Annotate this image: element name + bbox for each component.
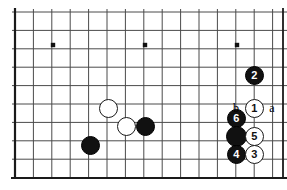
go-board-diagram: 216543 ba [0,0,287,190]
go-stone-white-move-5: 5 [245,127,264,146]
go-stone-black-lower-mid [136,117,155,136]
star-point [143,43,147,47]
board-marker-point-b: b [229,101,243,115]
stone-move-number: 1 [251,103,257,114]
board-marker-point-a: a [265,101,279,115]
go-stone-white-move-3: 3 [245,145,264,164]
goban-grid [0,0,287,190]
go-stone-black-lower-left [81,136,100,155]
stone-move-number: 5 [251,131,257,142]
go-stone-white-move-1: 1 [245,99,264,118]
go-stone-black-move-4: 4 [227,145,246,164]
stone-move-number: 3 [251,149,257,160]
star-point [51,43,55,47]
go-stone-white-upper-left [99,99,118,118]
go-stone-black-move-2: 2 [245,66,264,85]
go-stone-black-plain-right [226,126,247,147]
go-stone-white-lower-left [117,117,136,136]
star-point [235,43,239,47]
stone-move-number: 2 [251,70,257,81]
stone-move-number: 4 [233,149,239,160]
